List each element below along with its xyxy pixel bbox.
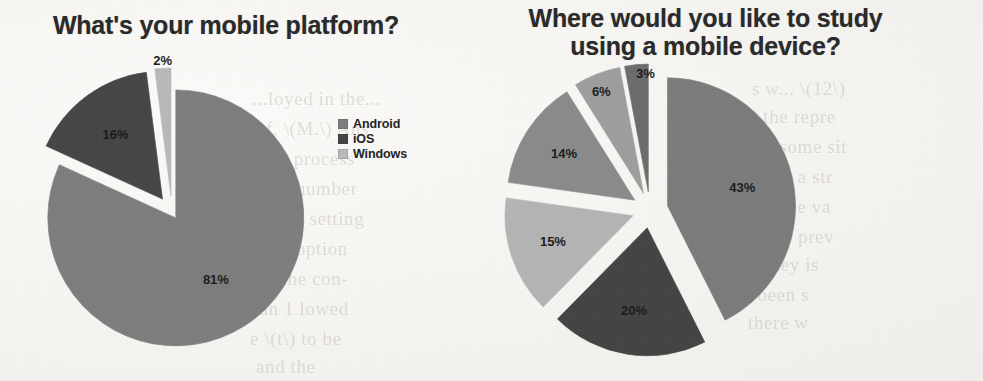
legend-mobile-platform: AndroidiOSWindows	[338, 117, 407, 162]
pie-slice-label: 43%	[729, 180, 755, 195]
legend-swatch-icon	[338, 119, 348, 129]
legend-item[interactable]: Windows	[338, 147, 407, 161]
pie-slice-label: 16%	[102, 127, 128, 142]
pie-slice-label: 3%	[636, 66, 655, 81]
pie-slice[interactable]	[668, 78, 796, 320]
pie-slice-label: 20%	[621, 303, 647, 318]
pie-slice-label: 2%	[153, 53, 172, 68]
pie-svg: 43%20%15%14%6%3%	[490, 0, 834, 364]
charts-container: What's your mobile platform? 81%16%2% An…	[0, 0, 983, 381]
pie-svg: 81%16%2%	[0, 0, 356, 366]
legend-swatch-icon	[338, 134, 348, 144]
legend-item[interactable]: iOS	[338, 132, 407, 146]
chart-panel-mobile-platform: What's your mobile platform? 81%16%2% An…	[0, 0, 490, 381]
pie-slice-label: 81%	[203, 272, 229, 287]
legend-item[interactable]: Android	[338, 117, 407, 131]
chart-panel-study-location: Where would you like to study using a mo…	[490, 0, 983, 381]
pie-slice-label: 6%	[592, 84, 611, 99]
pie-chart-mobile-platform: 81%16%2%	[0, 0, 356, 366]
pie-slice-label: 15%	[540, 234, 566, 249]
pie-chart-study-location: 43%20%15%14%6%3%	[490, 0, 834, 364]
legend-item-label: Android	[353, 117, 400, 131]
legend-item-label: Windows	[353, 147, 407, 161]
pie-slice-label: 14%	[551, 146, 577, 161]
legend-item-label: iOS	[353, 132, 374, 146]
legend-swatch-icon	[338, 149, 348, 159]
